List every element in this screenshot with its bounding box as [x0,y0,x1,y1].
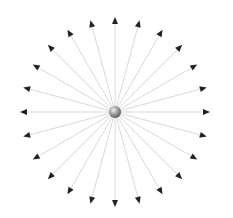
arrowhead-icon [112,200,118,207]
arrow [48,112,115,179]
arrow [112,112,118,207]
arrowhead-icon [190,153,198,159]
arrowhead-icon [33,153,41,159]
arrow-shaft [115,27,138,112]
arrow [115,112,141,204]
arrow [23,112,115,138]
arrow [115,109,210,115]
arrow [115,112,163,194]
radial-arrow-diagram [0,0,233,218]
arrow [20,109,115,115]
arrow [23,86,115,112]
arrow [68,30,116,112]
arrow [115,30,163,112]
arrow [115,86,207,112]
arrowhead-icon [23,86,31,92]
arrowhead-icon [68,187,74,195]
arrowhead-icon [112,17,118,24]
arrow-shaft [30,112,115,135]
arrow-shaft [115,89,200,112]
arrowhead-icon [20,109,27,115]
arrow-shaft [30,89,115,112]
arrow [115,112,197,160]
arrow [68,112,116,194]
arrow-shaft [92,27,115,112]
center-sphere-icon [109,106,121,118]
arrowhead-icon [89,20,95,28]
arrowhead-icon [135,20,141,28]
arrow [89,112,115,204]
arrowhead-icon [199,132,207,138]
arrowhead-icon [23,132,31,138]
arrow [115,112,207,138]
arrow [33,112,115,160]
arrowhead-icon [203,109,210,115]
arrowhead-icon [33,65,41,71]
arrow [115,112,182,179]
arrow [33,65,115,113]
arrowhead-icon [190,65,198,71]
arrowhead-icon [89,196,95,204]
arrow [89,20,115,112]
arrow-shaft [92,112,115,197]
arrowhead-icon [199,86,207,92]
arrow [115,65,197,113]
arrow [115,45,182,112]
arrowhead-icon [135,196,141,204]
arrowhead-icon [156,30,162,38]
arrow-shaft [115,112,200,135]
arrowhead-icon [156,187,162,195]
arrow [115,20,141,112]
arrow [112,17,118,112]
arrow-shaft [115,112,138,197]
arrowhead-icon [68,30,74,38]
arrow [48,45,115,112]
